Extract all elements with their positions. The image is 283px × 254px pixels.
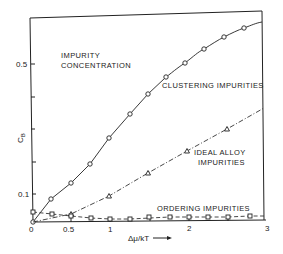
y-axis-ticks xyxy=(31,64,36,194)
x-tick-0.5: 0.5 xyxy=(63,225,75,234)
y-axis-label: CB xyxy=(16,133,26,143)
x-tick-3: 3 xyxy=(265,224,270,233)
x-tick-1: 1 xyxy=(108,225,113,234)
x-tick-2: 2 xyxy=(187,224,192,233)
annotation-concentration: CONCENTRATION xyxy=(61,61,131,70)
y-tick-0.1: 0.1 xyxy=(18,190,30,199)
triangle-markers xyxy=(69,127,230,217)
label-ideal-alloy: IDEAL ALLOY xyxy=(194,148,246,157)
x-axis-label: Δμ/kT xyxy=(128,234,149,243)
label-ideal-alloy-impurities: IMPURITIES xyxy=(198,158,245,167)
y-tick-0.5: 0.5 xyxy=(16,60,28,69)
label-clustering-impurities: CLUSTERING IMPURITIES xyxy=(162,81,264,90)
label-ordering-impurities: ORDERING IMPURITIES xyxy=(157,204,250,213)
plot-frame xyxy=(30,11,266,222)
chart: 0.5 0.1 CB 0 0.5 1 2 3 Δμ/kT IMPURITY CO… xyxy=(0,0,283,254)
x-tick-0: 0 xyxy=(29,225,34,234)
annotation-impurity: IMPURITY xyxy=(61,51,100,60)
arrow-right-icon xyxy=(153,236,172,240)
svg-text:CB: CB xyxy=(16,133,26,143)
